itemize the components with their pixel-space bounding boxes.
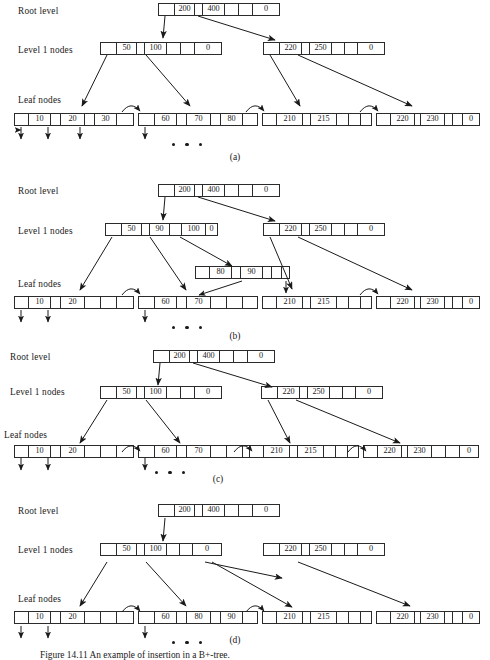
leaf4-c-key-230: 230 [407, 445, 431, 458]
leaf2-c-ptr-0 [138, 445, 154, 458]
row-label-root-level-b: Root level [18, 186, 58, 196]
l1r-b-ptr-2 [331, 223, 344, 236]
leaf3-d-key-215: 215 [310, 611, 336, 624]
l1r-b-ptr-1 [301, 223, 309, 236]
leaf1-c-ptr-2 [84, 445, 100, 458]
leaf2-c-key-70: 70 [186, 445, 210, 458]
leaf-node-3-b: 210 215 [262, 296, 372, 309]
leaf4-b-key-220: 220 [390, 296, 414, 309]
root-c-key-400: 400 [197, 350, 219, 363]
leaf1-key-30: 30 [94, 113, 116, 126]
leaf-node-4-c: 220 230 0 [363, 445, 479, 458]
root-cell-ptr-0 [158, 3, 174, 16]
leaf3-key-210: 210 [276, 113, 302, 126]
leaf3-ptr-1 [302, 113, 310, 126]
leaf1-d-ptr-2 [84, 611, 100, 624]
leaf4-c-key-220: 220 [377, 445, 401, 458]
row-label-root-level: Root level [18, 6, 58, 16]
leaf3-b-ptr-1 [302, 296, 310, 309]
l1r-c-null: 0 [355, 386, 383, 399]
leaf4-d-ptr-0 [376, 611, 390, 624]
row-label-level1: Level 1 nodes [18, 45, 73, 55]
leaf3-b-ptr-0 [262, 296, 276, 309]
leaf1-d-ptr-4 [116, 611, 134, 624]
l1l-cell-key-50: 50 [116, 42, 136, 55]
root-c-ptr-1 [189, 350, 197, 363]
l1r-c-ptr-2 [329, 386, 342, 399]
root-node-c: 200 400 0 [153, 350, 275, 363]
leaf-node-4-d: 220 230 0 [376, 611, 480, 624]
floatleaf-b-ptr-3 [271, 266, 281, 279]
leaf3-b-ptr-4 [360, 296, 372, 309]
floating-leaf-node-b: 80 90 [195, 266, 290, 279]
l1l-b-ptr-0 [105, 223, 121, 236]
leaf3-c-key-215: 215 [297, 445, 323, 458]
root-cell-null: 0 [252, 3, 280, 16]
leaf3-ptr-4 [360, 113, 372, 126]
leaf3-ptr-3 [348, 113, 360, 126]
leaf2-b-ptr-4 [242, 296, 258, 309]
leaf-node-4: 220 230 0 [376, 113, 480, 126]
leaf3-c-ptr-1 [289, 445, 297, 458]
leaf-node-4-b: 220 230 0 [376, 296, 480, 309]
l1l-d-null: 0 [192, 543, 222, 556]
leaf2-b-ptr-0 [138, 296, 154, 309]
level1-node-right-c: 220 250 0 [261, 386, 383, 399]
leaf4-ptr-3 [452, 113, 462, 126]
level1-node-left-d: 50 100 0 [100, 543, 222, 556]
l1l-cell-ptr-3 [180, 42, 194, 55]
floatleaf-b-ptr-2 [262, 266, 271, 279]
leaf2-key-80: 80 [220, 113, 242, 126]
l1r-cell-ptr-2 [331, 42, 344, 55]
l1l-c-null: 0 [194, 386, 222, 399]
leaf1-ptr-2 [84, 113, 94, 126]
leaf1-ptr-1 [50, 113, 60, 126]
leaf4-d-key-220: 220 [390, 611, 414, 624]
l1r-cell-ptr-3 [344, 42, 357, 55]
leaf1-b-ptr-1 [50, 296, 60, 309]
l1r-d-null: 0 [357, 543, 385, 556]
leaf1-d-key-10: 10 [28, 611, 50, 624]
floatleaf-b-ptr-0 [195, 266, 209, 279]
leaf1-key-20: 20 [60, 113, 84, 126]
leaf-node-3-d: 210 215 [262, 611, 372, 624]
l1r-c-ptr-3 [342, 386, 355, 399]
leaf1-b-ptr-2 [84, 296, 100, 309]
leaf4-c-ptr-2 [431, 445, 445, 458]
leaf1-c-ptr-1 [50, 445, 60, 458]
root-d-ptr-3 [238, 504, 252, 517]
leaf3-b-ptr-2 [336, 296, 348, 309]
root-d-key-200: 200 [174, 504, 194, 517]
l1r-d-key-220: 220 [279, 543, 301, 556]
leaf3-c-key-210: 210 [263, 445, 289, 458]
leaf1-d-ptr-3 [100, 611, 116, 624]
leaf2-d-key-80: 80 [186, 611, 210, 624]
l1r-cell-ptr-1 [301, 42, 309, 55]
root-d-null: 0 [252, 504, 280, 517]
leaf2-b-ptr-3 [226, 296, 242, 309]
panel-caption-d: (d) [215, 635, 255, 645]
leaf2-c-ptr-3 [226, 445, 242, 458]
leaf4-ptr-0 [376, 113, 390, 126]
row-label-level1-b: Level 1 nodes [18, 226, 73, 236]
leaf2-d-ptr-3 [242, 611, 258, 624]
panel-caption-a: (a) [215, 152, 255, 162]
panel-caption-b: (b) [215, 331, 255, 341]
leaf1-d-ptr-1 [50, 611, 60, 624]
root-d-ptr-2 [224, 504, 238, 517]
row-label-leaf-b: Leaf nodes [18, 279, 61, 289]
leaf1-c-key-10: 10 [28, 445, 50, 458]
leaf1-b-ptr-0 [14, 296, 28, 309]
l1l-b-key-90: 90 [149, 223, 169, 236]
leaf4-ptr-2 [444, 113, 452, 126]
leaf1-key-10: 10 [28, 113, 50, 126]
root-node-d: 200 400 0 [158, 504, 280, 517]
root-node: 200 400 0 [158, 3, 280, 16]
panel-d: Root level Level 1 nodes Leaf nodes 200 … [0, 495, 490, 654]
l1r-d-ptr-3 [344, 543, 357, 556]
level1-node-right: 220 250 0 [263, 42, 385, 55]
floatleaf-b-ptr-4 [281, 266, 290, 279]
leaf2-d-ptr-1 [176, 611, 186, 624]
l1l-cell-ptr-0 [100, 42, 116, 55]
leaf2-c-key-60: 60 [154, 445, 176, 458]
